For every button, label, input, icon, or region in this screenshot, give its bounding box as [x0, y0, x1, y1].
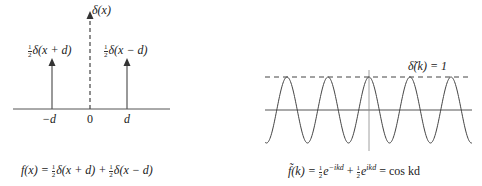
right-spike-arrowhead: [124, 58, 131, 66]
delta-tilde-label: δ̃(k) = 1: [408, 60, 447, 72]
tick-minus-d: −d: [42, 113, 56, 125]
tick-zero: 0: [87, 113, 93, 125]
left-caption: f(x) = 12δ(x + d) + 12δ(x − d): [21, 164, 153, 179]
right-caption: f̃(k) = 12e−ikd + 12eikd = cos kd: [288, 164, 420, 180]
delta-x-label: δ(x): [92, 4, 111, 16]
left-spike-label: 12δ(x + d): [28, 44, 72, 59]
right-plot: [265, 70, 472, 151]
right-spike-label: 12δ(x − d): [104, 44, 148, 59]
diagram-canvas: [0, 0, 482, 186]
left-spike-arrowhead: [49, 58, 56, 66]
half-fraction: 12: [28, 44, 32, 59]
tick-d: d: [124, 113, 130, 125]
left-plot: [13, 11, 170, 109]
half-fraction: 12: [104, 44, 108, 59]
